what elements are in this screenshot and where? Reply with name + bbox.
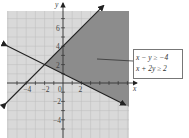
legend-box: x − y ≥ −4 x + 2y ≥ 2 [133, 49, 183, 79]
svg-text:0: 0 [58, 85, 62, 94]
svg-text:4: 4 [56, 42, 60, 51]
svg-text:y: y [54, 0, 59, 9]
svg-text:−2: −2 [42, 85, 50, 94]
svg-text:6: 6 [56, 24, 60, 33]
svg-text:x: x [132, 84, 137, 93]
svg-text:2: 2 [56, 61, 60, 70]
legend-inequality-1: x − y ≥ −4 [136, 52, 180, 63]
legend-inequality-2: x + 2y ≥ 2 [136, 63, 180, 74]
svg-text:−4: −4 [53, 116, 61, 125]
svg-text:2: 2 [78, 85, 82, 94]
svg-text:−4: −4 [23, 85, 31, 94]
svg-text:−2: −2 [53, 97, 61, 106]
